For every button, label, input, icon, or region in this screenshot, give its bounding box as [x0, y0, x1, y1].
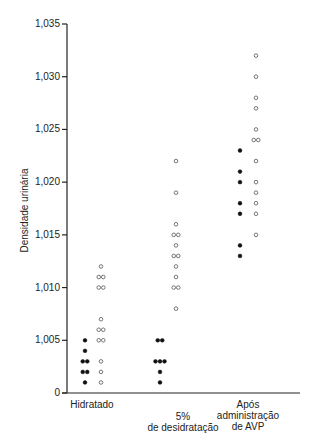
open-data-point — [254, 180, 258, 184]
open-data-point — [97, 338, 101, 342]
open-data-point — [174, 191, 178, 195]
open-data-point — [254, 128, 258, 132]
open-data-point — [174, 265, 178, 269]
x-category-label: Apósadministraçãode AVP — [198, 399, 298, 432]
open-data-point — [174, 159, 178, 163]
open-data-point — [254, 96, 258, 100]
filled-data-point — [85, 359, 89, 363]
open-data-point — [254, 212, 258, 216]
open-data-point — [99, 381, 103, 385]
open-data-point — [174, 307, 178, 311]
open-data-point — [97, 328, 101, 332]
open-data-point — [101, 328, 105, 332]
y-tick-label: 1,020 — [10, 177, 60, 187]
open-data-point — [254, 201, 258, 205]
open-data-point — [172, 254, 176, 258]
filled-data-point — [85, 370, 89, 374]
open-data-point — [172, 286, 176, 290]
filled-data-point — [238, 170, 242, 174]
open-data-point — [174, 244, 178, 248]
filled-data-point — [238, 212, 242, 216]
open-data-point — [101, 338, 105, 342]
y-tick-label: 1,030 — [10, 72, 60, 82]
y-tick-label: 1,005 — [10, 335, 60, 345]
open-data-point — [97, 275, 101, 279]
open-data-point — [176, 233, 180, 237]
open-data-point — [99, 360, 103, 364]
open-data-point — [254, 75, 258, 79]
open-data-point — [97, 286, 101, 290]
filled-data-point — [238, 149, 242, 153]
y-tick-label: 0 — [10, 388, 60, 398]
open-data-point — [254, 233, 258, 237]
open-data-point — [99, 317, 103, 321]
open-data-point — [254, 54, 258, 58]
filled-data-point — [83, 349, 87, 353]
x-category-label: Hidratado — [42, 399, 142, 410]
open-data-point — [172, 233, 176, 237]
y-tick-label: 1,035 — [10, 19, 60, 29]
open-data-point — [101, 275, 105, 279]
y-axis-label: Densidade urinária — [19, 161, 30, 261]
y-tick-label: 1,015 — [10, 230, 60, 240]
open-data-point — [254, 191, 258, 195]
filled-data-point — [81, 359, 85, 363]
filled-data-point — [83, 381, 87, 385]
filled-data-point — [83, 338, 87, 342]
y-tick-label: 1,010 — [10, 283, 60, 293]
filled-data-point — [158, 359, 162, 363]
filled-data-point — [160, 338, 164, 342]
filled-data-point — [156, 338, 160, 342]
plot-area — [0, 0, 319, 441]
filled-data-point — [158, 370, 162, 374]
filled-data-point — [238, 254, 242, 258]
open-data-point — [254, 159, 258, 163]
open-data-point — [256, 138, 260, 142]
filled-data-point — [238, 180, 242, 184]
filled-data-point — [154, 359, 158, 363]
open-data-point — [176, 286, 180, 290]
dot-plot-chart: Densidade urinária 01,0051,0101,0151,020… — [0, 0, 319, 441]
open-data-point — [254, 107, 258, 111]
open-data-point — [101, 286, 105, 290]
y-tick-label: 1,025 — [10, 124, 60, 134]
open-data-point — [252, 138, 256, 142]
open-data-point — [99, 370, 103, 374]
open-data-point — [174, 223, 178, 227]
filled-data-point — [81, 370, 85, 374]
filled-data-point — [158, 381, 162, 385]
open-data-point — [174, 275, 178, 279]
filled-data-point — [238, 244, 242, 248]
filled-data-point — [238, 201, 242, 205]
open-data-point — [99, 265, 103, 269]
open-data-point — [176, 254, 180, 258]
filled-data-point — [163, 359, 167, 363]
